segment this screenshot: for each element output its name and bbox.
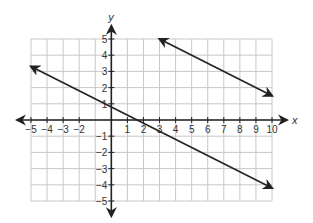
y-tick-label: 4 <box>102 50 108 61</box>
x-tick-label: 4 <box>173 124 179 135</box>
y-axis-label: y <box>107 11 115 23</box>
x-tick-label: 1 <box>125 124 131 135</box>
x-tick-label: 7 <box>221 124 227 135</box>
y-tick-label: −4 <box>96 180 108 191</box>
x-axis-label: x <box>291 114 298 126</box>
plotted-lines <box>31 39 272 188</box>
y-tick-label: −2 <box>96 147 108 158</box>
y-tick-label: −3 <box>96 164 108 175</box>
x-tick-label: −4 <box>41 124 53 135</box>
x-tick-label: −5 <box>25 124 37 135</box>
x-tick-label: 10 <box>266 124 278 135</box>
x-tick-label: −3 <box>57 124 69 135</box>
y-tick-label: −1 <box>96 131 108 142</box>
x-tick-label: 5 <box>189 124 195 135</box>
axes <box>17 26 287 216</box>
y-tick-label: 2 <box>102 83 108 94</box>
x-tick-label: 8 <box>237 124 243 135</box>
y-tick-label: 5 <box>102 34 108 45</box>
coordinate-plane: −5−4−3−21234567891054321−1−2−3−4−5 x y <box>0 0 313 223</box>
x-tick-label: 6 <box>205 124 211 135</box>
x-tick-label: 2 <box>141 124 147 135</box>
x-tick-label: 9 <box>253 124 259 135</box>
y-tick-label: −5 <box>96 196 108 207</box>
x-tick-label: −2 <box>73 124 85 135</box>
y-tick-label: 3 <box>102 66 108 77</box>
